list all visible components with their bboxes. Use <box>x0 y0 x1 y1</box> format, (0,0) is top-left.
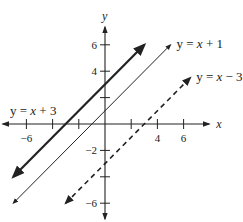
y-tick-label: −6 <box>85 197 97 209</box>
y-tick-label: 4 <box>92 65 98 77</box>
x-tick-label: −6 <box>21 132 33 144</box>
axes <box>3 27 209 219</box>
linear-functions-chart: xy−64664−2−6y = x + 3y = x + 1y = x − 3 <box>0 0 243 222</box>
y-tick-label: −2 <box>85 144 97 156</box>
x-tick-label: 4 <box>155 132 161 144</box>
labels: xy−64664−2−6y = x + 3y = x + 1y = x − 3 <box>10 9 243 209</box>
series-label-3: y = x − 3 <box>196 69 242 84</box>
x-tick-label: 6 <box>181 132 187 144</box>
x-axis-label: x <box>215 117 222 131</box>
y-tick-label: 6 <box>92 39 98 51</box>
y-axis-label: y <box>101 9 108 23</box>
series-label-1: y = x + 3 <box>10 103 56 118</box>
series-line-3 <box>66 78 190 203</box>
series-label-2: y = x + 1 <box>177 36 223 51</box>
